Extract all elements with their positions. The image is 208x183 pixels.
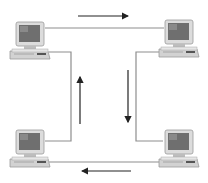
cable-lines — [45, 28, 164, 162]
desktop-computer-icon — [10, 22, 50, 59]
desktop-computer-icon — [10, 130, 50, 167]
desktop-computer-icon — [159, 130, 199, 167]
flow-arrows — [78, 16, 131, 171]
desktop-computer-icon — [159, 20, 199, 57]
ring-network-diagram — [0, 0, 208, 183]
